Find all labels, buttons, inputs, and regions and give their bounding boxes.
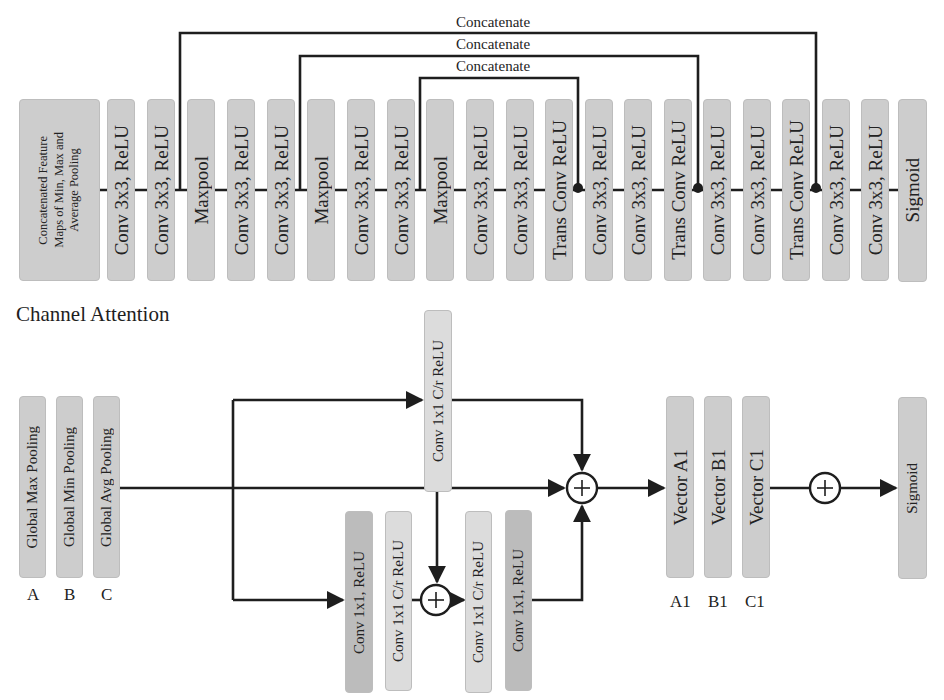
conv-block: Conv 3x3, ReLU [743, 99, 771, 281]
block-label: Sigmoid [903, 158, 922, 222]
block-label: Vector C1 [747, 449, 766, 526]
block-label: Maxpool [312, 156, 331, 225]
bottom-conv-block-1: Conv 1x1, ReLU [345, 511, 373, 693]
block-label: Conv 3x3, ReLU [511, 125, 530, 255]
block-label: Conv 1x1, ReLU [352, 551, 367, 654]
block-label: Trans Conv ReLU [669, 120, 688, 260]
conv-block: Conv 3x3, ReLU [466, 99, 494, 281]
bottom-conv-block-4: Conv 1x1, ReLU [505, 510, 532, 691]
maxpool-block: Maxpool [307, 99, 335, 281]
vector-a1-block: Vector A1 [666, 396, 694, 578]
block-label: Conv 3x3, ReLU [866, 125, 885, 255]
global-min-pooling-block: Global Min Pooling [56, 396, 83, 578]
conv-block: Conv 3x3, ReLU [107, 99, 135, 281]
block-label: Trans Conv ReLU [787, 120, 806, 260]
block-label: Conv 3x3, ReLU [629, 125, 648, 255]
concat-junction-dot [693, 183, 703, 193]
conv-block: Conv 3x3, ReLU [822, 99, 850, 281]
maxpool-block: Maxpool [187, 99, 215, 281]
conv-block: Conv 3x3, ReLU [624, 99, 652, 281]
vector-caption-b1: B1 [708, 592, 728, 612]
sigmoid-block: Sigmoid [898, 99, 927, 282]
block-label: Trans Conv ReLU [550, 120, 569, 260]
conv-block: Conv 3x3, ReLU [267, 99, 295, 281]
architecture-diagram: Concatenate Concatenate Concatenate Conc… [0, 0, 944, 700]
block-label: Sigmoid [905, 463, 920, 514]
block-label: Conv 1x1 C/r ReLU [431, 340, 446, 462]
vector-b1-block: Vector B1 [704, 396, 732, 578]
conv-block: Conv 3x3, ReLU [861, 99, 889, 281]
block-label: Conv 3x3, ReLU [827, 125, 846, 255]
block-label: Maxpool [431, 156, 450, 225]
pooling-caption-c: C [101, 585, 112, 605]
channel-attention-sigmoid-block: Sigmoid [898, 397, 927, 579]
conv-block: Conv 3x3, ReLU [506, 99, 534, 281]
block-label: Conv 3x3, ReLU [272, 125, 291, 255]
block-label: Conv 3x3, ReLU [352, 125, 371, 255]
block-label: Conv 3x3, ReLU [708, 125, 727, 255]
pooling-caption-a: A [27, 585, 39, 605]
input-concatenated-feature-maps: Concatenated Feature Maps of Min, Max an… [19, 99, 100, 281]
global-max-pooling-block: Global Max Pooling [19, 396, 46, 578]
block-label: Global Min Pooling [62, 427, 77, 547]
concatenate-label-outer: Concatenate [456, 14, 530, 31]
bottom-conv-block-3: Conv 1x1 C/r ReLU [465, 511, 492, 693]
block-label: Global Avg Pooling [99, 428, 114, 547]
concatenate-label-middle: Concatenate [456, 36, 530, 53]
block-label: Maxpool [192, 156, 211, 225]
maxpool-block: Maxpool [426, 99, 454, 281]
trans-conv-block: Trans Conv ReLU [782, 99, 810, 281]
conv-block: Conv 3x3, ReLU [703, 99, 731, 281]
block-label: Conv 3x3, ReLU [590, 125, 609, 255]
block-label: Conv 3x3, ReLU [471, 125, 490, 255]
concat-junction-dot [573, 183, 583, 193]
block-label: Conv 1x1 C/r ReLU [471, 541, 486, 663]
pooling-caption-b: B [64, 585, 75, 605]
block-label: Vector B1 [709, 449, 728, 526]
trans-conv-block: Trans Conv ReLU [545, 99, 573, 281]
conv-block: Conv 3x3, ReLU [585, 99, 613, 281]
block-label: Concatenated Feature Maps of Min, Max an… [36, 132, 83, 248]
block-label: Global Max Pooling [25, 426, 40, 549]
block-label: Conv 3x3, ReLU [152, 125, 171, 255]
block-label: Conv 3x3, ReLU [748, 125, 767, 255]
concat-junction-dot [811, 183, 821, 193]
block-label: Conv 3x3, ReLU [392, 125, 411, 255]
vector-c1-block: Vector C1 [742, 396, 770, 578]
global-avg-pooling-block: Global Avg Pooling [93, 396, 120, 578]
block-label: Vector A1 [671, 449, 690, 526]
channel-attention-title: Channel Attention [16, 302, 169, 327]
concatenate-label-inner: Concatenate [456, 58, 530, 75]
conv-block: Conv 3x3, ReLU [387, 99, 415, 281]
block-label: Conv 1x1, ReLU [511, 549, 526, 652]
trans-conv-block: Trans Conv ReLU [664, 99, 692, 281]
bottom-conv-block-2: Conv 1x1 C/r ReLU [385, 511, 412, 691]
conv-block: Conv 3x3, ReLU [227, 99, 255, 281]
conv-block: Conv 3x3, ReLU [347, 99, 375, 281]
block-label: Conv 1x1 C/r ReLU [391, 540, 406, 662]
vector-caption-a1: A1 [670, 592, 691, 612]
vector-caption-c1: C1 [745, 592, 765, 612]
block-label: Conv 3x3, ReLU [232, 125, 251, 255]
block-label: Conv 3x3, ReLU [112, 125, 131, 255]
conv-block: Conv 3x3, ReLU [147, 99, 175, 281]
top-conv-1x1-block: Conv 1x1 C/r ReLU [424, 310, 452, 492]
